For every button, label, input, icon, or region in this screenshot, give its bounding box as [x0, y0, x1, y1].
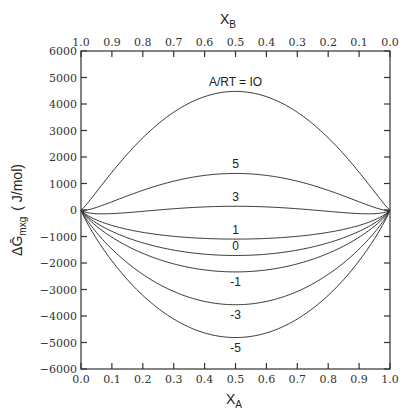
x-tick-label: 0.9: [350, 373, 368, 386]
y-tick-label: 6000: [49, 45, 77, 58]
x-top-axis-title: XB: [220, 11, 236, 30]
x-top-tick-label: 0.7: [165, 36, 183, 49]
curve-label: 3: [232, 190, 239, 204]
curve-a-over-rt-3: [81, 206, 390, 214]
x-top-tick-label: 0.9: [103, 36, 121, 49]
x-top-tick-label: 0.4: [258, 36, 276, 49]
svg-text:XB: XB: [220, 11, 236, 30]
chart: XB 0.00.10.20.30.40.50.60.70.80.91.01.00…: [0, 0, 407, 419]
data-curves: [81, 91, 390, 337]
x-top-tick-label: 0.2: [319, 36, 337, 49]
y-tick-label: 0: [70, 204, 77, 217]
x-tick-label: 0.5: [227, 373, 245, 386]
curve-label: -5: [230, 341, 241, 355]
curve-label: -1: [230, 275, 241, 289]
svg-text:XA: XA: [226, 391, 242, 410]
x-tick-label: 0.8: [319, 373, 337, 386]
x-top-tick-label: 0.1: [350, 36, 368, 49]
x-tick-label: 0.7: [289, 373, 307, 386]
curve-label: 1: [232, 223, 239, 237]
y-tick-label: −6000: [40, 363, 77, 376]
x-tick-label: 0.4: [196, 373, 214, 386]
curve-label: A/RT = IO: [209, 75, 262, 89]
curve-labels: A/RT = IO5310-1-3-5: [209, 75, 262, 354]
y-tick-label: −1000: [40, 231, 77, 244]
curve-label: -3: [230, 308, 241, 322]
x-tick-label: 0.6: [258, 373, 276, 386]
x-tick-label: 0.1: [103, 373, 121, 386]
y-tick-label: 2000: [49, 151, 77, 164]
y-tick-label: −4000: [40, 310, 77, 323]
x-top-tick-label: 0.8: [134, 36, 152, 49]
y-tick-label: 5000: [49, 72, 77, 85]
y-tick-label: 4000: [49, 98, 77, 111]
x-tick-label: 1.0: [381, 373, 399, 386]
x-tick-label: 0.2: [134, 373, 152, 386]
y-tick-label: 1000: [49, 178, 77, 191]
y-axis-title: ΔḠmxg( J/mol): [9, 164, 28, 256]
x-top-tick-label: 0.6: [196, 36, 214, 49]
x-top-tick-label: 0.0: [381, 36, 399, 49]
y-tick-label: −5000: [40, 337, 77, 350]
svg-text:ΔḠmxg( J/mol): ΔḠmxg( J/mol): [9, 164, 28, 256]
x-axis-title: XA: [226, 391, 242, 410]
y-tick-label: 3000: [49, 125, 77, 138]
curve-label: 0: [232, 239, 239, 253]
x-top-tick-label: 0.5: [227, 36, 245, 49]
x-tick-label: 0.3: [165, 373, 183, 386]
curve-label: 5: [232, 157, 239, 171]
y-tick-label: −2000: [40, 257, 77, 270]
x-top-tick-label: 0.3: [289, 36, 307, 49]
y-tick-label: −3000: [40, 284, 77, 297]
